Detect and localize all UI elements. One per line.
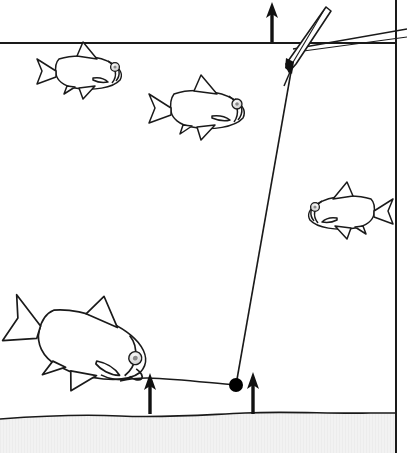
fishing-diagram: Lift method bite indication on a waggler… [0, 0, 407, 453]
bait-lift-arrow [144, 373, 156, 414]
lead-shot-weight [229, 378, 243, 392]
fish-roach-right [309, 182, 393, 239]
fish-feeding-tench [0, 272, 162, 410]
float-lift-arrow [266, 2, 278, 42]
fish-roach-upper-left [37, 42, 121, 99]
lakebed [0, 412, 396, 453]
shot-lift-arrow [247, 372, 259, 414]
diagram-canvas [0, 0, 407, 453]
fish-roach-mid-left [149, 75, 244, 140]
